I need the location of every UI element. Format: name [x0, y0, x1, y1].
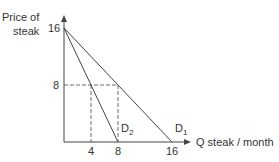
- d2-label: D2: [121, 122, 134, 137]
- x-tick-4: 4: [88, 145, 94, 157]
- x-axis-label: Q steak / month: [196, 136, 274, 148]
- y-axis-label-line1: Price of: [2, 11, 40, 23]
- d1-label: D1: [175, 122, 188, 137]
- y-tick-8: 8: [53, 79, 59, 91]
- y-axis-label-line2: steak: [13, 25, 40, 37]
- x-axis-arrow-icon: [184, 139, 191, 145]
- y-axis-arrow-icon: [61, 15, 67, 22]
- x-tick-8: 8: [115, 145, 121, 157]
- demand-chart: Price of steak 16 8 4 8 16 D2 D1 Q steak…: [0, 0, 279, 162]
- y-tick-16: 16: [48, 22, 60, 34]
- x-tick-16: 16: [166, 145, 178, 157]
